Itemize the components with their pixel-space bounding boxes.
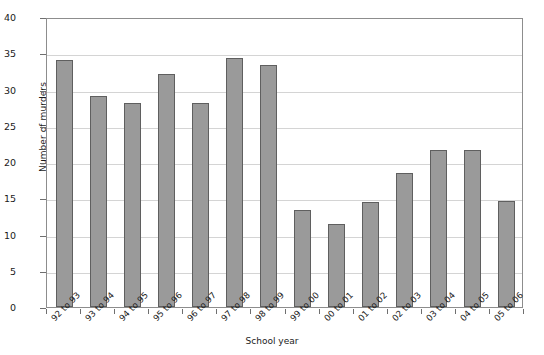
x-axis-tick-mark xyxy=(46,309,47,314)
x-axis-tick-mark xyxy=(353,309,354,314)
bar[interactable] xyxy=(124,103,141,307)
x-axis-tick-mark xyxy=(250,309,251,314)
bar[interactable] xyxy=(498,201,515,307)
y-axis-tick-label: 35 xyxy=(0,49,16,59)
y-axis-tick-label: 25 xyxy=(0,122,16,132)
x-axis-tick-mark xyxy=(80,309,81,314)
bar[interactable] xyxy=(192,103,209,307)
gridline xyxy=(47,164,522,165)
x-axis-tick-mark xyxy=(455,309,456,314)
x-axis-tick-mark xyxy=(148,309,149,314)
x-axis-tick-mark xyxy=(285,309,286,314)
bar[interactable] xyxy=(362,202,379,307)
bar[interactable] xyxy=(464,150,481,307)
y-axis-tick-label: 40 xyxy=(0,13,16,23)
bar[interactable] xyxy=(430,150,447,307)
bar[interactable] xyxy=(260,65,277,307)
y-axis-tick-label: 15 xyxy=(0,194,16,204)
x-axis-tick-mark xyxy=(421,309,422,314)
bar[interactable] xyxy=(226,58,243,307)
bar[interactable] xyxy=(158,74,175,307)
x-axis-tick-mark xyxy=(489,309,490,314)
bar[interactable] xyxy=(90,96,107,307)
x-axis-tick-mark xyxy=(216,309,217,314)
plot-area xyxy=(46,18,523,308)
y-axis-tick-label: 30 xyxy=(0,86,16,96)
gridline xyxy=(47,200,522,201)
bar[interactable] xyxy=(396,173,413,307)
y-axis-tick-label: 20 xyxy=(0,158,16,168)
bar-chart-figure: Number of murders 0510152025303540 92 to… xyxy=(0,0,544,355)
gridline xyxy=(47,237,522,238)
x-axis-tick-mark xyxy=(319,309,320,314)
y-axis-tick-label: 0 xyxy=(0,303,16,313)
y-axis-tick-label: 10 xyxy=(0,231,16,241)
bar[interactable] xyxy=(294,210,311,307)
y-axis-tick-label: 5 xyxy=(0,267,16,277)
gridline xyxy=(47,273,522,274)
x-axis-tick-mark xyxy=(387,309,388,314)
x-axis-title: School year xyxy=(0,336,544,346)
x-axis-tick-mark xyxy=(523,309,524,314)
bar[interactable] xyxy=(56,60,73,307)
x-axis-tick-mark xyxy=(114,309,115,314)
gridline xyxy=(47,128,522,129)
x-axis-tick-mark xyxy=(182,309,183,314)
gridline xyxy=(47,92,522,93)
gridline xyxy=(47,55,522,56)
